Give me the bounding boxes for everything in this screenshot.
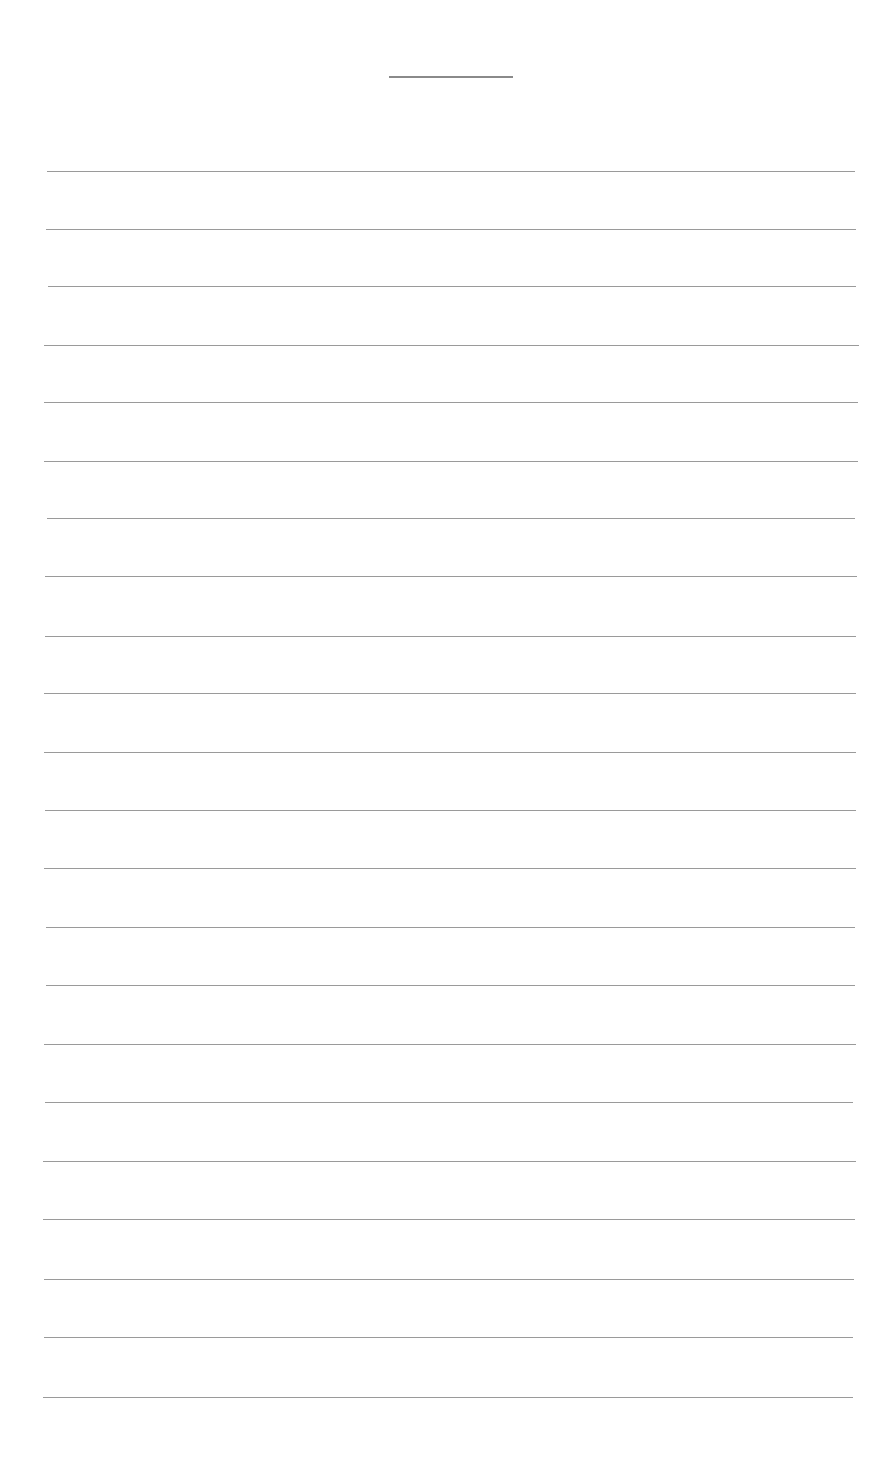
- writing-line: [48, 286, 856, 287]
- writing-line: [45, 810, 856, 811]
- writing-line: [44, 752, 856, 753]
- writing-line: [45, 1102, 853, 1103]
- writing-line: [46, 229, 856, 230]
- writing-line: [44, 1337, 853, 1338]
- writing-line: [47, 171, 855, 172]
- writing-line: [44, 868, 856, 869]
- writing-line: [45, 576, 857, 577]
- writing-line: [43, 1219, 855, 1220]
- writing-line: [43, 1161, 856, 1162]
- writing-line: [46, 927, 855, 928]
- writing-line: [45, 636, 856, 637]
- writing-line: [44, 402, 858, 403]
- writing-line: [46, 985, 855, 986]
- writing-line: [44, 693, 856, 694]
- writing-line: [44, 345, 859, 346]
- title-rule: [389, 76, 513, 78]
- writing-line: [44, 461, 858, 462]
- writing-line: [44, 1044, 856, 1045]
- writing-line: [47, 518, 855, 519]
- writing-line: [43, 1397, 853, 1398]
- writing-line: [44, 1279, 854, 1280]
